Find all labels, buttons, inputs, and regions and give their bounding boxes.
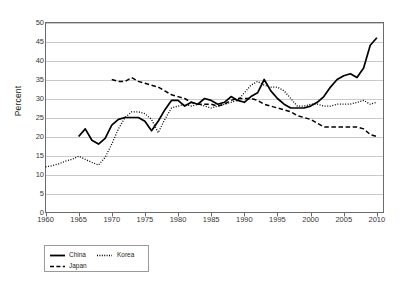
legend-label-korea: Korea [117, 251, 134, 259]
x-tick-label: 1960 [37, 215, 54, 224]
y-axis-tick-labels: 50454035302520151050 [20, 0, 44, 284]
x-tick-label: 1965 [70, 215, 87, 224]
series-line-china [79, 38, 377, 144]
data-series [46, 38, 377, 167]
x-tick-label: 1990 [236, 215, 253, 224]
plot-area [0, 0, 408, 284]
x-tick-label: 1985 [203, 215, 220, 224]
y-tick-label: 15 [22, 152, 44, 160]
y-tick-label: 20 [22, 133, 44, 141]
x-tick-label: 1980 [170, 215, 187, 224]
gridlines [46, 24, 384, 195]
x-tick-label: 2000 [302, 215, 319, 224]
chart-legend: ChinaKoreaJapan [44, 245, 149, 272]
plot-frame [46, 23, 384, 213]
y-tick-label: 45 [22, 38, 44, 46]
series-line-korea [46, 81, 377, 166]
y-tick-label: 30 [22, 95, 44, 103]
y-tick-label: 40 [22, 57, 44, 65]
chart-container: Percent 50454035302520151050 19601965197… [0, 0, 408, 284]
x-tick-label: 2005 [335, 215, 352, 224]
y-tick-label: 10 [22, 171, 44, 179]
legend-label-japan: Japan [69, 262, 87, 270]
legend-label-china: China [69, 251, 86, 259]
y-tick-label: 5 [22, 190, 44, 198]
series-line-japan [112, 78, 377, 137]
y-tick-label: 50 [22, 19, 44, 27]
x-tick-label: 1970 [103, 215, 120, 224]
x-tick-label: 1995 [269, 215, 286, 224]
y-tick-label: 25 [22, 114, 44, 122]
y-tick-label: 35 [22, 76, 44, 84]
x-tick-label: 1975 [137, 215, 154, 224]
x-axis-tick-labels: 1960196519701975198019851990199520002005… [0, 215, 408, 229]
x-tick-label: 2010 [369, 215, 386, 224]
